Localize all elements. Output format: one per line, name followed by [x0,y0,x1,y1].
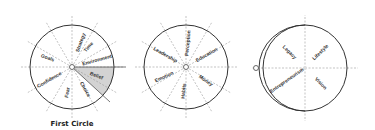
third-circle-edge-marker [254,66,259,71]
second-circle: PerceptionEducationMoneyHabitsEmotionLea… [134,15,238,119]
sector-label-goals: Goals [40,52,55,62]
second-circle-hub [184,65,189,70]
sector-label-education: Education [194,46,218,63]
sector-label-vision: Vision [314,76,329,91]
first-circle-hub [70,65,75,70]
third-circle-hub [303,66,307,70]
sector-label-fear: Fear [63,87,71,98]
third-circle: LifestyleVisionEntrepreneurismLegacy [252,15,358,121]
guide-line [186,67,212,112]
sector-label-money: Money [198,73,215,87]
first-circle: StrategyTimeEnvironmentBeliefChoiceFearC… [20,15,126,128]
sector-label-legacy: Legacy [282,44,299,61]
three-circles-diagram: StrategyTimeEnvironmentBeliefChoiceFearC… [0,0,375,130]
first-circle-caption: First Circle [51,120,94,128]
sector-label-environment: Environment [81,53,112,67]
sector-label-confidence: Confidence [36,70,63,89]
sector-label-lifestyle: Lifestyle [311,42,330,61]
sector-label-emotion: Emotion [154,70,175,84]
sector-label-perception: Perception [183,30,191,56]
sector-label-time: Time [82,40,94,53]
sector-label-entrepreneurism: Entrepreneurism [269,66,306,94]
